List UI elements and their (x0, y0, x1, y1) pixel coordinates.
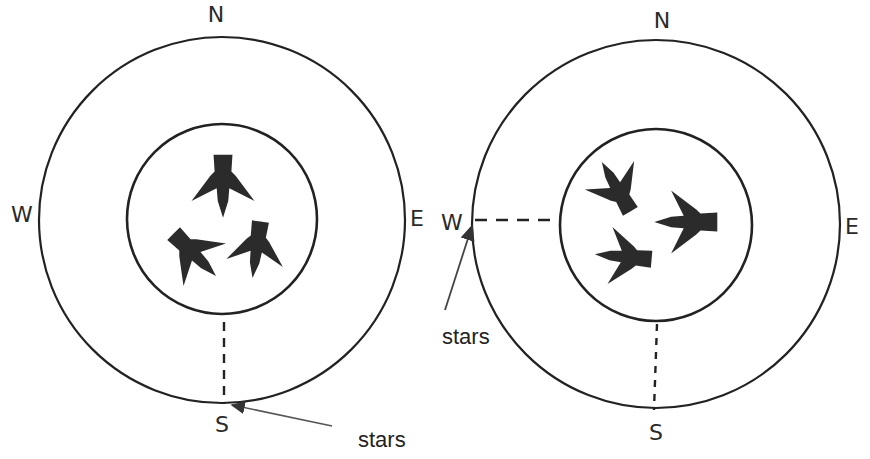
right-compass-west: W (441, 210, 463, 235)
right-stars-label: stars (442, 324, 490, 349)
right-bird-1-icon (577, 148, 655, 226)
right-dashed-line-south (654, 324, 657, 410)
right-diagram: N W E S stars (441, 8, 859, 445)
right-compass-south: S (649, 420, 663, 445)
left-bird-3-icon (224, 218, 288, 282)
right-stars-arrow (445, 226, 472, 310)
left-diagram: N W E S stars (11, 2, 424, 452)
right-compass-east: E (845, 214, 859, 239)
left-compass-north: N (208, 2, 224, 27)
left-compass-south: S (215, 412, 229, 437)
left-outer-ring (39, 37, 405, 403)
left-compass-west: W (11, 202, 33, 227)
right-compass-north: N (654, 8, 670, 33)
right-bird-2-icon (654, 191, 717, 254)
left-inner-circle (127, 124, 317, 314)
left-bird-2-icon (152, 212, 237, 297)
left-compass-east: E (410, 206, 424, 231)
orientation-diagram-canvas: N W E S stars N W E S (0, 0, 870, 459)
left-stars-label: stars (358, 427, 406, 452)
left-stars-arrow (232, 405, 332, 426)
right-inner-circle (560, 129, 752, 321)
right-bird-3-icon (592, 226, 654, 288)
left-bird-1-icon (192, 155, 255, 218)
